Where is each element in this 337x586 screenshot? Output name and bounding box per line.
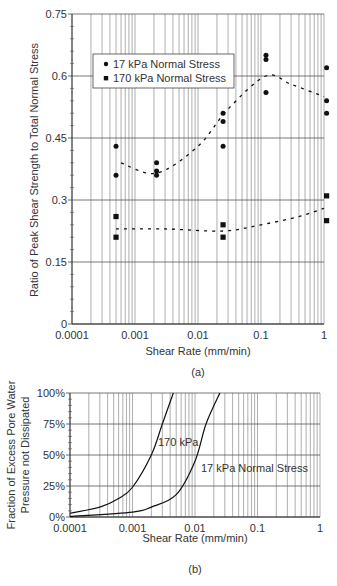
chart-b-panel-label: (b) bbox=[188, 563, 201, 575]
legend-17kpa: 17 kPa Normal Stress bbox=[113, 58, 220, 70]
x-tick-label: 1 bbox=[321, 329, 327, 341]
data-point-circle bbox=[154, 173, 159, 178]
trend-line bbox=[116, 208, 324, 231]
x-tick-label: 0.1 bbox=[253, 329, 268, 341]
curve-line bbox=[70, 393, 173, 513]
chart-b-y-axis-label-line2: Pressure not Dissipated bbox=[19, 397, 31, 514]
chart-b-x-axis-label: Shear Rate (mm/min) bbox=[142, 532, 247, 544]
data-point-square bbox=[324, 193, 329, 198]
y-tick-label: 75% bbox=[43, 418, 65, 430]
chart-b-y-axis-label-line1: Fraction of Excess Pore Water bbox=[5, 380, 17, 529]
y-tick-label: 25% bbox=[43, 480, 65, 492]
data-point-circle bbox=[221, 144, 226, 149]
data-point-circle bbox=[324, 111, 329, 116]
y-tick-label: 100% bbox=[37, 387, 65, 399]
y-tick-label: 0.45 bbox=[46, 132, 67, 144]
y-tick-label: 0.6 bbox=[52, 70, 67, 82]
trend-line bbox=[121, 75, 324, 174]
annotation-170kpa: 170 kPa bbox=[158, 436, 199, 448]
data-point-square bbox=[220, 222, 225, 227]
data-point-circle bbox=[221, 111, 226, 116]
data-point-circle bbox=[263, 57, 268, 62]
data-point-square bbox=[113, 214, 118, 219]
legend-170kpa: 170 kPa Normal Stress bbox=[113, 72, 227, 84]
x-tick-label: 0.0001 bbox=[55, 329, 89, 341]
x-tick-label: 0.01 bbox=[187, 329, 208, 341]
chart-b: 0%25%50%75%100%0.00010.0010.010.11 bbox=[37, 387, 323, 534]
data-point-square bbox=[220, 235, 225, 240]
y-tick-label: 0.15 bbox=[46, 256, 67, 268]
data-point-circle bbox=[154, 160, 159, 165]
circle-marker-icon bbox=[104, 62, 108, 66]
data-point-circle bbox=[114, 144, 119, 149]
x-tick-label: 0.1 bbox=[250, 522, 265, 534]
square-marker-icon bbox=[104, 76, 108, 80]
y-tick-label: 0.3 bbox=[52, 194, 67, 206]
data-point-circle bbox=[324, 65, 329, 70]
data-point-square bbox=[324, 218, 329, 223]
data-point-circle bbox=[221, 119, 226, 124]
y-tick-label: 0.75 bbox=[46, 8, 67, 20]
chart-a-panel-label: (a) bbox=[191, 366, 204, 378]
x-tick-label: 0.0001 bbox=[53, 522, 87, 534]
annotation-17kpa: 17 kPa Normal Stress bbox=[201, 462, 308, 474]
chart-a-y-axis-label: Ratio of Peak Shear Strength to Total No… bbox=[28, 42, 40, 297]
x-tick-label: 0.001 bbox=[121, 329, 149, 341]
data-point-circle bbox=[324, 98, 329, 103]
data-point-square bbox=[113, 235, 118, 240]
chart-a-x-axis-label: Shear Rate (mm/min) bbox=[145, 345, 250, 357]
figure: 00.150.30.450.60.750.00010.0010.010.11 0… bbox=[0, 0, 337, 586]
data-point-circle bbox=[114, 173, 119, 178]
y-tick-label: 50% bbox=[43, 449, 65, 461]
x-tick-label: 1 bbox=[317, 522, 323, 534]
chart-a-legend: 17 kPa Normal Stress 170 kPa Normal Stre… bbox=[93, 54, 234, 88]
data-point-circle bbox=[263, 90, 268, 95]
